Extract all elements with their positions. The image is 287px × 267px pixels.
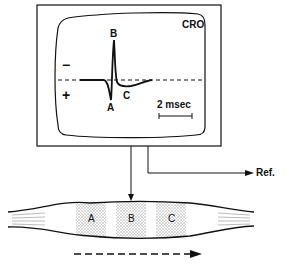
trough-a-label: A [107,103,114,113]
reference-label: Ref. [256,168,275,178]
propagation-arrowhead [190,250,202,258]
muscle-region-b-label: B [128,214,135,224]
muscle-region-c-label: C [168,214,175,224]
point-c-label: C [123,91,130,101]
cro-label: CRO [182,20,204,30]
probe-arrowhead [128,194,134,201]
peak-b-label: B [110,29,117,39]
action-potential-waveform [80,40,152,100]
reference-arrowhead [245,170,254,176]
time-scale-label: 2 msec [157,100,191,110]
oscilloscope-screen [55,13,205,138]
diagram-canvas [0,0,287,267]
negative-sign: − [62,58,70,72]
positive-sign: + [62,88,70,102]
reference-lead [148,146,247,173]
muscle-region-a-label: A [88,214,95,224]
cro-muscle-diagram: CRO − + B A C 2 msec Ref. A B C [0,0,287,267]
